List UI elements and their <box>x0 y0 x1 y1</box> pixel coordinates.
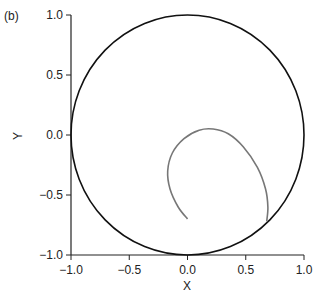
x-tick-label: 0.0 <box>179 263 196 277</box>
y-tick-label: −0.5 <box>39 188 63 202</box>
figure: (b) −1.0−0.50.00.51.0−1.0−0.50.00.51.0 X… <box>0 0 313 294</box>
y-tick-label: −1.0 <box>39 248 63 262</box>
y-tick-label: 0.5 <box>46 68 63 82</box>
y-tick-label: 1.0 <box>46 8 63 22</box>
x-tick-label: 1.0 <box>296 263 313 277</box>
y-axis-label: Y <box>11 132 25 140</box>
x-tick-label: −1.0 <box>59 263 83 277</box>
y-tick-label: 0.0 <box>46 128 63 142</box>
plot-area <box>71 15 304 255</box>
axes: −1.0−0.50.00.51.0−1.0−0.50.00.51.0 <box>39 8 312 277</box>
chart: (b) −1.0−0.50.00.51.0−1.0−0.50.00.51.0 X… <box>0 0 313 294</box>
trajectory-curve <box>168 129 268 222</box>
panel-label: (b) <box>4 9 19 23</box>
x-axis-label: X <box>183 279 191 293</box>
x-tick-label: 0.5 <box>237 263 254 277</box>
x-tick-label: −0.5 <box>117 263 141 277</box>
